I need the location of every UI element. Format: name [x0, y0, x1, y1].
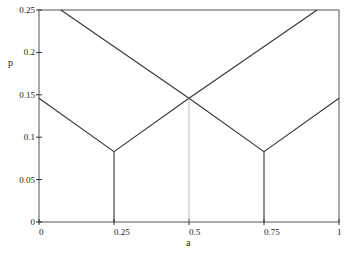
x-tick-label: 0 [39, 227, 44, 237]
y-tick-label: 0.1 [24, 132, 35, 142]
series-right-V [189, 98, 339, 151]
chart: 00.050.10.150.20.25 00.250.50.751 p a [0, 0, 349, 263]
y-tick-label: 0.15 [19, 90, 35, 100]
y-tick-label: 0 [31, 217, 36, 227]
y-tick-label: 0.05 [19, 175, 35, 185]
y-tick-label: 0.2 [24, 47, 35, 57]
y-axis-label: p [8, 57, 13, 68]
x-tick-label: 0.75 [264, 227, 280, 237]
series-left-V [39, 98, 189, 151]
x-tick-label: 0.25 [114, 227, 130, 237]
x-tick-label: 0.5 [189, 227, 201, 237]
y-tick-label: 0.25 [19, 5, 35, 15]
x-axis-label: a [186, 237, 191, 248]
x-tick-label: 1 [337, 227, 342, 237]
series-descending [61, 10, 189, 98]
series-ascending [189, 10, 317, 98]
